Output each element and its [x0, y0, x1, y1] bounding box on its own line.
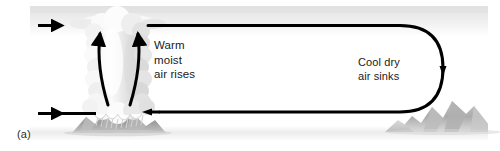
cumulonimbus-cloud	[70, 6, 166, 124]
panel-letter-label: (a)	[17, 127, 31, 141]
figure-canvas	[0, 0, 500, 151]
subsidence-arrowhead	[440, 66, 447, 76]
cool-dry-air-sinks-label: Cool dry air sinks	[358, 55, 400, 83]
atmospheric-circulation-figure: Warm moist air rises Cool dry air sinks …	[0, 0, 500, 151]
warm-moist-air-rises-label: Warm moist air rises	[154, 38, 195, 82]
right-mountain-range	[385, 101, 500, 135]
